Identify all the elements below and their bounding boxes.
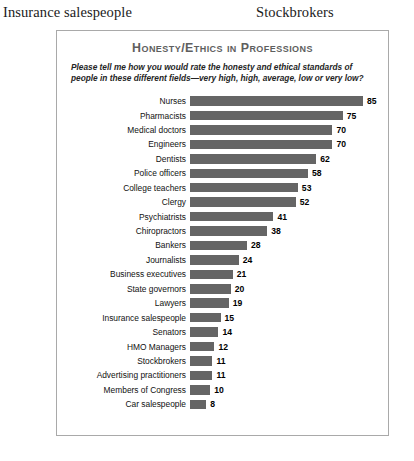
- bar-row-bar-area: 19: [190, 298, 388, 308]
- bar-row: Engineers70: [61, 137, 388, 151]
- bar-row-bar-area: 21: [190, 269, 388, 279]
- bar: [190, 140, 332, 150]
- bar-value-label: 19: [229, 298, 243, 308]
- bar: [190, 371, 212, 381]
- bar-row: Nurses85: [61, 94, 388, 108]
- bar-row: Business executives21: [61, 267, 388, 281]
- bar-value-label: 28: [247, 240, 261, 250]
- bar-row: Psychiatrists41: [61, 209, 388, 223]
- bar-row-bar-area: 41: [190, 212, 388, 222]
- bar-row-label: Advertising practitioners: [61, 370, 190, 380]
- bar-row-bar-area: 24: [190, 255, 388, 265]
- bar-row-label: Business executives: [61, 269, 190, 279]
- bar-value-label: 75: [343, 111, 357, 121]
- bar-value-label: 14: [218, 327, 232, 337]
- bar: [190, 270, 233, 280]
- bar: [190, 255, 239, 265]
- bar-row-bar-area: 38: [190, 226, 388, 236]
- bar-row-label: Lawyers: [61, 298, 190, 308]
- bar-row-label: State governors: [61, 284, 190, 294]
- bar-row: Bankers28: [61, 238, 388, 252]
- bar: [190, 111, 343, 121]
- bar-value-label: 62: [316, 154, 330, 164]
- bar-value-label: 38: [267, 226, 281, 236]
- bar-row: Insurance salespeople15: [61, 310, 388, 324]
- chart-panel: Honesty/Ethics in Professions Please tel…: [56, 30, 389, 436]
- bar-row-bar-area: 20: [190, 284, 388, 294]
- bar-row-bar-area: 52: [190, 197, 388, 207]
- bar-row-bar-area: 58: [190, 168, 388, 178]
- bar-chart-plot: Nurses85Pharmacists75Medical doctors70En…: [57, 94, 388, 412]
- bar: [190, 212, 273, 222]
- bar-row-bar-area: 8: [190, 399, 388, 409]
- bar: [190, 183, 298, 193]
- bar-row: Clergy52: [61, 195, 388, 209]
- chart-title: Honesty/Ethics in Professions: [57, 41, 388, 55]
- bar-row: Car salespeople8: [61, 397, 388, 411]
- bar-value-label: 15: [221, 313, 235, 323]
- bar-row-label: College teachers: [61, 183, 190, 193]
- bar-row-bar-area: 12: [190, 342, 388, 352]
- bar-value-label: 41: [273, 212, 287, 222]
- bar-row-bar-area: 11: [190, 356, 388, 366]
- bar-value-label: 58: [308, 168, 322, 178]
- bar-row: Pharmacists75: [61, 108, 388, 122]
- bar-row-label: Engineers: [61, 139, 190, 149]
- bar: [190, 284, 231, 294]
- bar: [190, 342, 214, 352]
- bar-row-label: Insurance salespeople: [61, 313, 190, 323]
- bar-row-bar-area: 85: [190, 96, 388, 106]
- bar: [190, 125, 332, 135]
- bar-row-bar-area: 53: [190, 183, 388, 193]
- running-header-right: Stockbrokers: [256, 4, 334, 21]
- bar-row-label: Senators: [61, 327, 190, 337]
- bar-row-label: HMO Managers: [61, 342, 190, 352]
- bar-row-bar-area: 62: [190, 154, 388, 164]
- bar-row-label: Nurses: [61, 96, 190, 106]
- chart-subtitle: Please tell me how you would rate the ho…: [71, 62, 374, 85]
- bar-value-label: 53: [298, 183, 312, 193]
- bar-row: State governors20: [61, 282, 388, 296]
- bar-row-bar-area: 15: [190, 313, 388, 323]
- bar-row-label: Psychiatrists: [61, 212, 190, 222]
- bar-value-label: 70: [332, 125, 346, 135]
- bar-row-bar-area: 10: [190, 385, 388, 395]
- bar-value-label: 21: [233, 269, 247, 279]
- bar-row-label: Medical doctors: [61, 125, 190, 135]
- bar: [190, 313, 221, 323]
- bar: [190, 298, 229, 308]
- bar-row: Journalists24: [61, 253, 388, 267]
- bar-row: Senators14: [61, 325, 388, 339]
- bar-value-label: 8: [206, 399, 215, 409]
- bar: [190, 241, 247, 251]
- bar-row-bar-area: 11: [190, 370, 388, 380]
- bar: [190, 327, 218, 337]
- bar-value-label: 10: [210, 385, 224, 395]
- bar-row: Advertising practitioners11: [61, 368, 388, 382]
- bar: [190, 154, 316, 164]
- bar: [190, 226, 267, 236]
- bar-value-label: 52: [296, 197, 310, 207]
- bar-row-label: Pharmacists: [61, 111, 190, 121]
- bar-row: Dentists62: [61, 152, 388, 166]
- running-headers: Insurance salespeople Stockbrokers: [0, 0, 414, 30]
- bar-row-bar-area: 28: [190, 240, 388, 250]
- bar-row-bar-area: 70: [190, 139, 388, 149]
- bar-row: Chiropractors38: [61, 224, 388, 238]
- bar-value-label: 20: [231, 284, 245, 294]
- bar-row-label: Chiropractors: [61, 226, 190, 236]
- bar-value-label: 11: [212, 356, 225, 366]
- bar-row: Police officers58: [61, 166, 388, 180]
- bar-row-bar-area: 14: [190, 327, 388, 337]
- bar-row: HMO Managers12: [61, 339, 388, 353]
- bar-row: College teachers53: [61, 181, 388, 195]
- bar-row-bar-area: 70: [190, 125, 388, 135]
- bar: [190, 197, 296, 207]
- bar-row: Stockbrokers11: [61, 354, 388, 368]
- bar-row: Members of Congress10: [61, 383, 388, 397]
- bar: [190, 356, 212, 366]
- bar: [190, 96, 363, 106]
- bar-row: Lawyers19: [61, 296, 388, 310]
- bar-row-label: Journalists: [61, 255, 190, 265]
- running-header-left: Insurance salespeople: [3, 4, 132, 21]
